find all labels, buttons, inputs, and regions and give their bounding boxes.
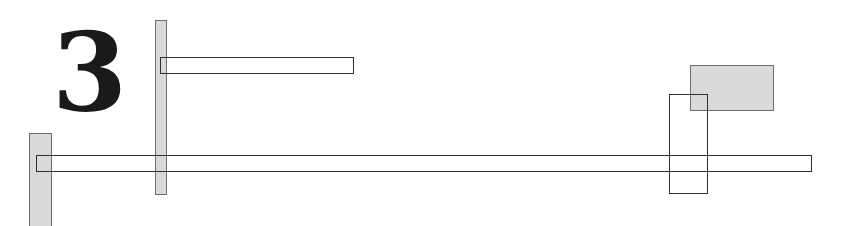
figure-number-label: 3 [52,18,127,126]
right-outlined-box [669,94,708,194]
left-shaded-bar [29,133,52,226]
top-outlined-bar [160,57,354,74]
diagram-canvas: 3 [0,0,843,226]
